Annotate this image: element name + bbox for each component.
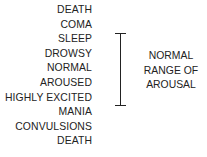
state-coma: COMA: [0, 18, 92, 33]
bracket-bottom-cap: [115, 105, 126, 106]
state-convulsions: CONVULSIONS: [0, 120, 92, 135]
bracket-line: [120, 33, 121, 106]
label-line-1: NORMAL: [140, 49, 202, 64]
state-mania: MANIA: [0, 105, 92, 120]
state-death-bottom: DEATH: [0, 134, 92, 149]
label-line-3: AROUSAL: [140, 78, 202, 93]
state-aroused: AROUSED: [0, 76, 92, 91]
state-normal: NORMAL: [0, 61, 92, 76]
state-sleep: SLEEP: [0, 32, 92, 47]
state-highly-excited: HIGHLY EXCITED: [0, 91, 92, 106]
normal-range-label: NORMAL RANGE OF AROUSAL: [140, 49, 202, 93]
label-line-2: RANGE OF: [140, 64, 202, 79]
arousal-state-list: DEATH COMA SLEEP DROWSY NORMAL AROUSED H…: [0, 3, 92, 149]
state-drowsy: DROWSY: [0, 47, 92, 62]
state-death-top: DEATH: [0, 3, 92, 18]
range-bracket: [115, 33, 126, 106]
